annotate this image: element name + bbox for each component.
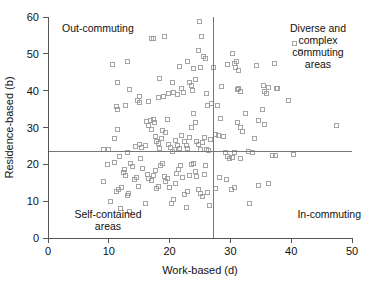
data-point (143, 201, 147, 205)
data-point (261, 84, 265, 88)
data-point (236, 120, 240, 124)
data-point (189, 126, 193, 130)
data-point (178, 64, 182, 68)
data-point (175, 172, 179, 176)
data-point (191, 111, 195, 115)
data-point (147, 100, 151, 104)
data-point (196, 49, 200, 53)
data-point (115, 107, 119, 111)
data-point (115, 127, 119, 131)
y-axis-tick-label: 40 (27, 85, 39, 97)
data-point (260, 107, 264, 111)
data-point (109, 200, 113, 204)
data-point (193, 170, 197, 174)
data-point (134, 144, 138, 148)
data-point (162, 35, 166, 39)
data-point (262, 123, 266, 127)
data-point (113, 136, 117, 140)
data-point (220, 85, 224, 89)
data-point (102, 179, 106, 183)
data-point (248, 201, 252, 205)
data-point (149, 127, 153, 131)
data-point (188, 173, 192, 177)
data-point (151, 174, 155, 178)
data-point (158, 147, 162, 151)
data-point (197, 19, 201, 23)
y-axis-tick-label: 20 (27, 158, 39, 170)
data-point (224, 150, 228, 154)
data-point (192, 67, 196, 71)
data-point (219, 116, 223, 120)
x-axis-tick-label: 30 (224, 245, 236, 257)
data-point (124, 103, 128, 107)
annotation-diverse-complex-commuting-areas: Diverse and complex commuting areas (277, 22, 359, 70)
data-point (115, 80, 119, 84)
data-point (200, 34, 204, 38)
data-point (118, 155, 122, 159)
data-point (207, 204, 211, 208)
data-point (253, 137, 257, 141)
x-axis-tick-label: 20 (163, 245, 175, 257)
data-point (182, 140, 186, 144)
x-axis-tick-label: 40 (285, 245, 297, 257)
x-axis-tick-label: 0 (45, 245, 51, 257)
data-point (113, 160, 117, 164)
data-point (166, 92, 170, 96)
annotation-out-commuting: Out-commuting (62, 22, 134, 34)
data-point (197, 187, 201, 191)
data-point (125, 150, 129, 154)
data-point (165, 117, 169, 121)
data-point (238, 156, 242, 160)
data-point (157, 95, 161, 99)
data-point (190, 88, 194, 92)
data-point (110, 63, 114, 67)
data-point (203, 163, 207, 167)
data-point (221, 134, 225, 138)
data-point (186, 60, 190, 64)
data-point (179, 163, 183, 167)
data-point (180, 176, 184, 180)
data-point (209, 138, 213, 142)
data-point (167, 142, 171, 146)
data-point (230, 51, 234, 55)
data-point (193, 120, 197, 124)
data-point (168, 186, 172, 190)
y-axis-tick-label: 10 (27, 195, 39, 207)
y-axis-tick-label: 60 (27, 11, 39, 23)
data-point (224, 178, 228, 182)
data-point (256, 184, 260, 188)
y-axis-tick-label: 30 (27, 122, 39, 134)
data-point (203, 136, 207, 140)
data-point (141, 166, 145, 170)
x-axis-tick-label: 10 (103, 245, 115, 257)
scatter-plot-figure: 010203040500102030405060 Work-based (d)R… (0, 0, 371, 281)
y-axis-title: Residence-based (b) (3, 76, 15, 178)
x-axis-tick-label: 50 (346, 245, 358, 257)
data-point (195, 174, 199, 178)
data-point (256, 119, 260, 123)
data-point (159, 136, 163, 140)
data-point (216, 104, 220, 108)
data-point (127, 88, 131, 92)
annotation-in-commuting: In-commuting (297, 208, 361, 220)
data-point (162, 95, 166, 99)
data-point (138, 157, 142, 161)
data-point (204, 92, 208, 96)
data-point (334, 124, 338, 128)
data-point (292, 152, 296, 156)
data-point (145, 173, 149, 177)
y-axis-tick-label: 50 (27, 48, 39, 60)
data-point (205, 190, 209, 194)
data-point (217, 175, 221, 179)
data-point (171, 81, 175, 85)
data-point (194, 78, 198, 82)
data-point (255, 64, 259, 68)
data-point (226, 63, 230, 67)
data-point (184, 205, 188, 209)
data-point (202, 173, 206, 177)
annotation-self-contained-areas: Self-contained areas (60, 208, 156, 232)
x-axis-title: Work-based (d) (162, 264, 238, 276)
data-point (177, 168, 181, 172)
data-point (173, 181, 177, 185)
data-point (188, 135, 192, 139)
